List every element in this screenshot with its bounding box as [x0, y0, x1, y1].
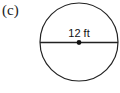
- center-point: [77, 40, 82, 45]
- circle-diagram: 12 ft: [0, 0, 120, 93]
- diameter-label: 12 ft: [68, 27, 89, 39]
